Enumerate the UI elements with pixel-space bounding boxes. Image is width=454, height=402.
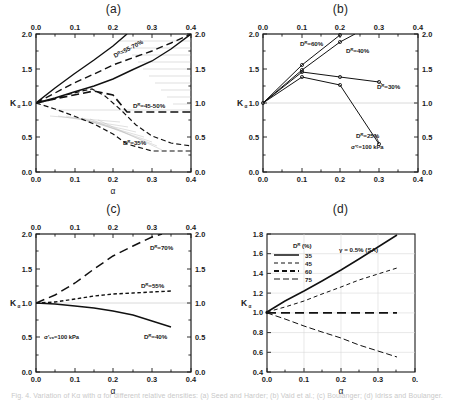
- panel-d-legend: Dᴿ (%) 35 45 60 75: [274, 242, 312, 283]
- panel-c-y-axis-sublabel: α: [18, 304, 21, 309]
- panel-d-y-axis-label: K: [241, 298, 248, 308]
- svg-text:0.3: 0.3: [147, 375, 157, 384]
- panel-c: (c): [0, 200, 227, 401]
- curve-dr70: [36, 234, 162, 303]
- svg-text:0.2: 0.2: [108, 223, 118, 232]
- svg-text:2.0: 2.0: [22, 30, 32, 39]
- curve-dr45-50-upper: [36, 34, 191, 103]
- legend-label-dr60: 60: [305, 268, 312, 275]
- svg-text:1.0: 1.0: [422, 99, 432, 108]
- svg-text:0.0: 0.0: [195, 368, 205, 377]
- svg-text:1.5: 1.5: [422, 65, 432, 74]
- svg-text:1.5: 1.5: [195, 265, 205, 274]
- svg-text:0.5: 0.5: [195, 133, 205, 142]
- panel-c-right-tick-labels: 0.0 0.5 1.0 1.5 2.0: [195, 230, 205, 377]
- panel-a-right-tick-labels: 0.0 0.5 1.0 1.5 2.0: [195, 30, 205, 177]
- panel-b-bottom-ticks: [263, 168, 418, 172]
- svg-text:0.6: 0.6: [253, 348, 263, 357]
- panel-b-y-axis-sublabel: α: [245, 104, 248, 109]
- svg-text:0.0: 0.0: [258, 175, 268, 184]
- svg-text:0.1: 0.1: [299, 375, 309, 384]
- svg-text:1.4: 1.4: [253, 269, 264, 278]
- panel-b-bottom-tick-labels: 0.0 0.1 0.2 0.3 0.4: [258, 175, 424, 184]
- panel-c-plot: 0.0 0.1 0.2 0.3 0.4 0.0 0.1 0.2 0.3 0.4 …: [0, 200, 227, 401]
- panel-d-left-tick-labels: 0.4 0.6 0.8 1.0 1.2 1.4 1.6 1.8: [253, 230, 264, 377]
- svg-text:0.5: 0.5: [22, 333, 32, 342]
- svg-text:0.5: 0.5: [22, 133, 32, 142]
- panel-b-annotation-dr40: Dᴿ=40%: [346, 47, 370, 54]
- svg-text:2.0: 2.0: [22, 230, 32, 239]
- legend-label-dr45: 45: [305, 260, 312, 267]
- curve-dr55-70-upper: [36, 34, 127, 103]
- svg-text:0.0: 0.0: [262, 375, 272, 384]
- panel-b-right-tick-labels: 0.0 0.5 1.0 1.5 2.0: [422, 30, 432, 177]
- svg-text:2.0: 2.0: [195, 230, 205, 239]
- panel-c-top-tick-labels: 0.0 0.1 0.2 0.3 0.4: [31, 223, 197, 232]
- panel-c-annotation-dr70: Dᴿ=70%: [150, 244, 174, 251]
- svg-text:0.2: 0.2: [335, 23, 345, 32]
- svg-text:0.1: 0.1: [70, 23, 80, 32]
- figure-caption: Fig. 4. Variation of Kα with α for diffe…: [0, 392, 454, 402]
- svg-text:0.4: 0.4: [253, 368, 264, 377]
- svg-text:0.3: 0.3: [374, 175, 384, 184]
- svg-text:0.0: 0.0: [31, 23, 41, 32]
- svg-text:1.0: 1.0: [22, 99, 32, 108]
- panel-c-y-axis-label: K: [10, 298, 17, 308]
- panel-a-x-axis-label: α: [111, 186, 116, 196]
- svg-text:0.0: 0.0: [22, 168, 32, 177]
- svg-text:2.0: 2.0: [195, 30, 205, 39]
- svg-text:0.0: 0.0: [422, 168, 432, 177]
- curve-dr55: [36, 291, 171, 303]
- panel-a-left-tick-labels: 0.0 0.5 1.0 1.5 2.0: [22, 30, 32, 177]
- panel-a: (a): [0, 0, 227, 201]
- panel-d-y-axis-sublabel: α: [249, 304, 252, 309]
- svg-text:1.0: 1.0: [195, 299, 205, 308]
- svg-text:1.0: 1.0: [253, 308, 263, 317]
- svg-text:0.3: 0.3: [147, 175, 157, 184]
- svg-text:0.8: 0.8: [253, 328, 263, 337]
- panel-d: (d): [227, 200, 454, 401]
- curve-dr40: [36, 303, 171, 327]
- curve-dr75: [267, 313, 397, 357]
- svg-text:0.1: 0.1: [70, 223, 80, 232]
- svg-text:0.3: 0.3: [373, 375, 383, 384]
- svg-text:1.5: 1.5: [22, 65, 32, 74]
- svg-text:0.5: 0.5: [195, 333, 205, 342]
- curve-dr45-50-lower: [36, 91, 191, 112]
- svg-text:0.1: 0.1: [70, 375, 80, 384]
- svg-text:0.0: 0.0: [258, 23, 268, 32]
- panel-b-plot: 0.0 0.1 0.2 0.3 0.4 0.0 0.1 0.2 0.3 0.4 …: [227, 0, 454, 201]
- legend-label-dr75: 75: [305, 276, 312, 283]
- svg-text:0.3: 0.3: [147, 223, 157, 232]
- svg-text:0.3: 0.3: [147, 23, 157, 32]
- curve-dr30: [263, 72, 379, 103]
- panel-b-top-tick-labels: 0.0 0.1 0.2 0.3 0.4: [258, 23, 424, 32]
- panel-c-annotation-dr40: Dᴿ=40%: [144, 333, 168, 340]
- svg-text:0.: 0.: [412, 375, 418, 384]
- svg-text:0.2: 0.2: [336, 375, 346, 384]
- svg-text:1.0: 1.0: [22, 299, 32, 308]
- curve-dr35-upper: [36, 89, 191, 146]
- svg-text:0.0: 0.0: [31, 175, 41, 184]
- svg-text:2.0: 2.0: [249, 30, 259, 39]
- panel-c-annotation-dr55: Dᴿ=55%: [141, 282, 165, 289]
- svg-text:1.5: 1.5: [249, 65, 259, 74]
- panel-b-annotation-dr60: Dᴿ=60%: [300, 40, 324, 47]
- panel-a-bottom-tick-labels: 0.0 0.1 0.2 0.3 0.4: [31, 175, 197, 184]
- svg-text:0.2: 0.2: [108, 175, 118, 184]
- svg-text:0.0: 0.0: [22, 368, 32, 377]
- panel-d-plot: Dᴿ (%) 35 45 60 75 γ = 0.5% (SA): [227, 200, 454, 401]
- svg-text:1.6: 1.6: [253, 249, 263, 258]
- svg-text:0.1: 0.1: [70, 175, 80, 184]
- svg-text:0.0: 0.0: [31, 223, 41, 232]
- panel-a-y-axis-sublabel: α: [18, 104, 21, 109]
- svg-text:1.8: 1.8: [253, 230, 263, 239]
- panel-d-annotation-strain: γ = 0.5% (SA): [339, 246, 378, 253]
- panel-d-origin-marker: [265, 311, 268, 314]
- panel-a-hatching: [50, 41, 191, 150]
- panel-b-left-tick-labels: 0.0 0.5 1.0 1.5 2.0: [249, 30, 259, 177]
- svg-text:1.5: 1.5: [22, 265, 32, 274]
- svg-text:0.5: 0.5: [249, 133, 259, 142]
- panel-b: (b): [227, 0, 454, 201]
- panel-c-left-tick-labels: 0.0 0.5 1.0 1.5 2.0: [22, 230, 32, 377]
